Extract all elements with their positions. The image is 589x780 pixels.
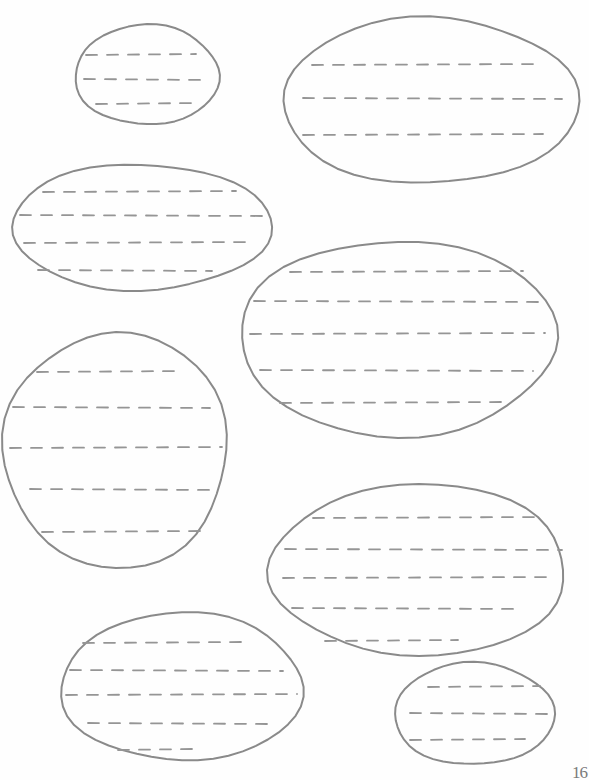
dashed-tracing-line — [303, 134, 543, 135]
dashed-tracing-line — [38, 270, 212, 271]
oval-3 — [12, 165, 272, 291]
dashed-tracing-line — [410, 739, 525, 740]
oval-tracing-drawing — [0, 0, 589, 780]
oval-1 — [76, 24, 220, 124]
dashed-tracing-line — [325, 640, 458, 641]
dashed-tracing-line — [312, 64, 540, 65]
dashed-tracing-line — [410, 713, 550, 714]
dashed-tracing-line — [30, 489, 218, 490]
dashed-tracing-line — [118, 749, 193, 750]
dashed-tracing-line — [10, 447, 222, 448]
dashed-tracing-line — [86, 54, 196, 55]
dashed-tracing-line — [250, 333, 545, 334]
dashed-tracing-line — [292, 608, 522, 609]
dashed-tracing-line — [37, 371, 183, 372]
dashed-tracing-line — [285, 549, 562, 550]
oval-outline — [76, 24, 220, 124]
dashed-tracing-line — [84, 79, 204, 80]
dashed-tracing-line — [280, 402, 505, 403]
dashed-tracing-line — [13, 407, 210, 408]
page-number: 16 — [572, 763, 587, 780]
oval-outline — [267, 484, 563, 656]
oval-6 — [267, 484, 563, 656]
oval-2 — [284, 16, 580, 182]
dashed-tracing-line — [20, 215, 262, 216]
worksheet-page: 16 — [0, 0, 589, 780]
dashed-tracing-line — [254, 301, 545, 302]
oval-7 — [61, 612, 303, 760]
dashed-tracing-line — [313, 517, 540, 518]
dashed-tracing-line — [66, 694, 297, 695]
dashed-tracing-line — [83, 642, 243, 643]
dashed-tracing-line — [24, 242, 252, 243]
oval-8 — [395, 662, 555, 764]
dashed-tracing-line — [283, 577, 553, 578]
dashed-tracing-line — [428, 686, 540, 687]
dashed-tracing-line — [42, 531, 200, 532]
oval-outline — [61, 612, 303, 760]
oval-5 — [2, 332, 227, 568]
dashed-tracing-line — [290, 271, 523, 272]
oval-outline — [12, 165, 272, 291]
oval-4 — [242, 242, 558, 438]
dashed-tracing-line — [96, 103, 196, 104]
dashed-tracing-line — [43, 191, 236, 192]
dashed-tracing-line — [303, 98, 562, 99]
dashed-tracing-line — [88, 723, 270, 724]
dashed-tracing-line — [260, 370, 533, 371]
dashed-tracing-line — [70, 670, 283, 671]
oval-outline — [2, 332, 227, 568]
